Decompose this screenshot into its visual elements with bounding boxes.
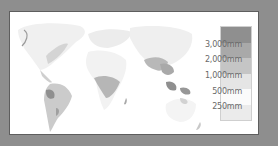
north-america: [18, 23, 85, 70]
central-america: [40, 70, 52, 83]
legend-label-3000: 3,000mm: [205, 41, 242, 49]
southeast-asia-wet: [160, 63, 174, 75]
legend-label-250: 250mm: [212, 103, 242, 111]
legend-label-1000: 1,000mm: [205, 72, 242, 80]
indonesia-wet: [166, 81, 176, 90]
legend-labels: 3,000mm 2,000mm 1,000mm 500mm 250mm: [182, 26, 242, 121]
madagascar: [124, 98, 127, 104]
map-frame: 3,000mm 2,000mm 1,000mm 500mm 250mm: [9, 11, 259, 135]
new-zealand: [196, 122, 201, 130]
europe: [88, 29, 132, 48]
legend-label-2000: 2,000mm: [205, 56, 242, 64]
legend-label-500: 500mm: [212, 88, 242, 96]
